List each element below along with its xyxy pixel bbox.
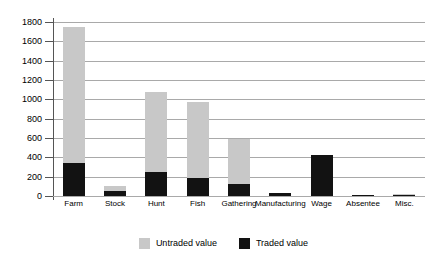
bar-series-container	[53, 22, 425, 196]
bar-segment-traded	[104, 191, 126, 196]
legend-item-traded[interactable]: Traded value	[239, 238, 308, 249]
bar-group[interactable]	[228, 139, 250, 196]
y-axis-tick-label: 400	[2, 153, 42, 162]
y-axis-tick	[45, 119, 53, 120]
y-axis-tick-label: 1000	[2, 95, 42, 104]
x-axis-tick-label: Stock	[105, 199, 125, 209]
y-axis-tick	[45, 157, 53, 158]
x-axis-line	[45, 196, 425, 197]
bar-group[interactable]	[63, 27, 85, 196]
x-axis-tick-label: Fish	[190, 199, 205, 209]
x-axis-labels: FarmStockHuntFishGatheringManufacturingW…	[0, 199, 447, 213]
bar-group[interactable]	[269, 193, 291, 196]
stacked-bar-chart: 180016001400120010008006004002000 FarmSt…	[0, 0, 447, 268]
bar-segment-traded	[393, 195, 415, 196]
bar-group[interactable]	[352, 195, 374, 196]
bar-segment-traded	[269, 193, 291, 196]
legend-swatch-traded-icon	[239, 238, 250, 249]
x-axis-tick-label: Hunt	[148, 199, 165, 209]
legend-swatch-untraded-icon	[139, 238, 150, 249]
legend-item-untraded[interactable]: Untraded value	[139, 238, 217, 249]
bar-segment-traded	[228, 184, 250, 196]
bar-segment-traded	[63, 163, 85, 196]
bar-segment-traded	[311, 155, 333, 196]
y-axis-tick	[45, 99, 53, 100]
bar-segment-untraded	[145, 92, 167, 173]
x-axis-tick-label: Absentee	[346, 199, 380, 209]
bar-segment-traded	[187, 178, 209, 196]
y-axis-tick-label: 1200	[2, 76, 42, 85]
y-axis-tick	[45, 41, 53, 42]
legend-label-traded: Traded value	[256, 239, 308, 248]
y-axis-tick	[45, 61, 53, 62]
bar-group[interactable]	[145, 92, 167, 196]
bar-group[interactable]	[104, 186, 126, 196]
bar-segment-untraded	[187, 102, 209, 178]
y-axis-tick	[45, 138, 53, 139]
bar-group[interactable]	[311, 155, 333, 196]
y-axis-tick	[45, 80, 53, 81]
bar-group[interactable]	[393, 194, 415, 196]
x-axis-tick-label: Manufacturing	[255, 199, 306, 209]
y-axis-tick-label: 1800	[2, 18, 42, 27]
x-axis-tick-label: Misc.	[395, 199, 414, 209]
y-axis-tick	[45, 177, 53, 178]
y-axis-tick-label: 600	[2, 134, 42, 143]
bar-segment-untraded	[63, 27, 85, 163]
bar-group[interactable]	[187, 102, 209, 196]
bar-segment-untraded	[228, 139, 250, 184]
bar-segment-traded	[145, 172, 167, 196]
x-axis-tick-label: Wage	[311, 199, 332, 209]
x-axis-tick-label: Gathering	[221, 199, 256, 209]
y-axis-tick-label: 200	[2, 173, 42, 182]
legend-label-untraded: Untraded value	[156, 239, 217, 248]
bar-segment-traded	[352, 195, 374, 196]
y-axis-tick	[45, 196, 53, 197]
y-axis-tick	[45, 22, 53, 23]
chart-legend: Untraded value Traded value	[0, 238, 447, 249]
x-axis-tick-label: Farm	[64, 199, 83, 209]
y-axis-labels: 180016001400120010008006004002000	[0, 0, 42, 268]
y-axis-tick-label: 800	[2, 115, 42, 124]
y-axis-tick-label: 1400	[2, 57, 42, 66]
y-axis-tick-label: 1600	[2, 37, 42, 46]
